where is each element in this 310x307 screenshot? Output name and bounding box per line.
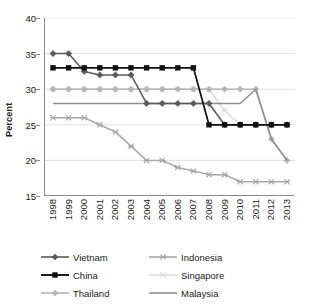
legend-item-malaysia[interactable]: Malaysia	[148, 287, 268, 299]
series-canvas	[45, 18, 295, 196]
data-point-marker	[221, 172, 227, 177]
data-point-marker	[159, 158, 165, 163]
data-point-marker	[206, 122, 211, 127]
legend-label: Indonesia	[181, 252, 222, 263]
data-point-marker	[191, 65, 196, 70]
y-tick-label: 35	[25, 48, 36, 59]
legend-label: Thailand	[73, 288, 109, 299]
y-axis-title: Percent	[2, 80, 16, 160]
y-tick-mark	[36, 196, 40, 197]
data-point-marker	[284, 179, 290, 184]
data-point-marker	[65, 115, 71, 120]
legend-item-indonesia[interactable]: Indonesia	[148, 251, 268, 263]
data-point-marker	[284, 122, 289, 127]
legend-symbol-thailand	[40, 287, 70, 299]
data-point-marker	[160, 272, 166, 277]
data-point-marker	[159, 100, 165, 106]
data-point-marker	[190, 168, 196, 173]
y-axis-ticks: 152025303540	[16, 18, 40, 196]
data-point-marker	[52, 272, 57, 277]
x-tick-label: 2007	[187, 199, 198, 220]
data-point-marker	[269, 122, 274, 127]
x-tick-label: 2008	[203, 199, 214, 220]
x-tick-label: 2000	[78, 199, 89, 220]
y-tick-mark	[36, 160, 40, 161]
legend-symbol-china	[40, 269, 70, 281]
data-point-marker	[237, 179, 243, 184]
x-tick-label: 1999	[63, 199, 74, 220]
x-tick-label: 2012	[265, 199, 276, 220]
data-point-marker	[82, 65, 87, 70]
data-point-marker	[144, 65, 149, 70]
data-point-marker	[113, 65, 118, 70]
data-point-marker	[160, 65, 165, 70]
data-point-marker	[237, 86, 243, 92]
data-point-marker	[50, 115, 56, 120]
chart-figure: Percent 152025303540 1998199920002001200…	[0, 0, 310, 307]
data-point-marker	[128, 144, 134, 149]
series-line	[53, 118, 287, 182]
data-point-marker	[112, 72, 118, 78]
data-point-marker	[175, 165, 181, 170]
data-point-marker	[52, 254, 58, 260]
x-tick-label: 2001	[94, 199, 105, 220]
x-tick-label: 2005	[156, 199, 167, 220]
legend-item-singapore[interactable]: Singapore	[148, 269, 268, 281]
data-point-marker	[206, 172, 212, 177]
data-point-marker	[50, 51, 56, 57]
x-tick-label: 2004	[141, 199, 152, 220]
y-tick-label: 15	[25, 191, 36, 202]
legend-item-china[interactable]: China	[40, 269, 148, 281]
x-tick-label: 2009	[219, 199, 230, 220]
x-tick-label: 2011	[250, 199, 261, 219]
data-point-marker	[66, 65, 71, 70]
data-point-marker	[81, 115, 87, 120]
x-axis-ticks: 1998199920002001200220032004200520062007…	[44, 198, 294, 244]
data-point-marker	[97, 72, 103, 78]
data-point-marker	[190, 100, 196, 106]
x-tick-label: 2002	[109, 199, 120, 220]
data-point-marker	[128, 72, 134, 78]
series-singapore	[50, 87, 290, 128]
y-tick-mark	[36, 89, 40, 90]
data-point-marker	[253, 179, 259, 184]
data-point-marker	[128, 65, 133, 70]
legend-label: Malaysia	[181, 288, 219, 299]
data-point-marker	[112, 129, 118, 134]
data-point-marker	[52, 290, 58, 296]
x-tick-label: 2006	[172, 199, 183, 220]
data-point-marker	[175, 65, 180, 70]
y-tick-label: 25	[25, 119, 36, 130]
data-point-marker	[144, 100, 150, 106]
y-tick-mark	[36, 125, 40, 126]
data-point-marker	[268, 179, 274, 184]
legend-symbol-malaysia	[148, 287, 178, 299]
series-line	[53, 68, 287, 125]
data-point-marker	[238, 122, 243, 127]
y-tick-mark	[36, 54, 40, 55]
y-tick-mark	[36, 18, 40, 19]
legend-label: Vietnam	[73, 252, 108, 263]
data-point-marker	[175, 100, 181, 106]
legend-symbol-vietnam	[40, 251, 70, 263]
data-point-marker	[222, 86, 228, 92]
legend-symbol-indonesia	[148, 251, 178, 263]
y-tick-label: 20	[25, 155, 36, 166]
data-point-marker	[221, 108, 227, 113]
data-point-marker	[143, 158, 149, 163]
legend-item-thailand[interactable]: Thailand	[40, 287, 148, 299]
data-point-marker	[50, 65, 55, 70]
x-tick-label: 2003	[125, 199, 136, 220]
x-tick-label: 2010	[234, 199, 245, 220]
y-tick-label: 40	[25, 13, 36, 24]
data-point-marker	[97, 65, 102, 70]
chart-legend: VietnamIndonesiaChinaSingaporeThailandMa…	[40, 248, 280, 304]
legend-item-vietnam[interactable]: Vietnam	[40, 251, 148, 263]
data-point-marker	[253, 122, 258, 127]
data-point-marker	[97, 122, 103, 127]
legend-label: China	[73, 270, 98, 281]
data-point-marker	[222, 122, 227, 127]
x-tick-label: 1998	[47, 199, 58, 220]
x-tick-label: 2013	[281, 199, 292, 220]
legend-label: Singapore	[181, 270, 224, 281]
